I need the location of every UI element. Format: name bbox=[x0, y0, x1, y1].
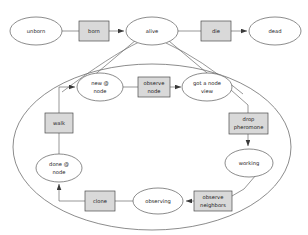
state-observing-shape[interactable] bbox=[133, 188, 183, 214]
edge-walk-newnode bbox=[59, 87, 75, 113]
state-observing[interactable]: observing bbox=[133, 188, 183, 214]
action-born-shape[interactable] bbox=[79, 21, 109, 41]
action-observe-node[interactable]: observe node bbox=[138, 77, 170, 97]
action-born[interactable]: born bbox=[79, 21, 109, 41]
action-drop-pheromone[interactable]: drop pheromone bbox=[229, 113, 268, 134]
edge-clone-donenode bbox=[59, 184, 85, 201]
state-got-a-node-view[interactable]: got a node view bbox=[182, 73, 232, 101]
state-dead-shape[interactable] bbox=[249, 17, 301, 45]
state-working[interactable]: working bbox=[225, 149, 273, 177]
state-new-at-node[interactable]: new @ node bbox=[77, 73, 123, 101]
action-observe-node-shape[interactable] bbox=[138, 77, 170, 97]
composite-edges bbox=[59, 87, 256, 201]
edge-working-observeneighbors bbox=[232, 175, 256, 196]
action-die[interactable]: die bbox=[201, 21, 231, 41]
action-observe-neighbors[interactable]: observe neighbors bbox=[194, 191, 232, 211]
action-observe-neighbors-shape[interactable] bbox=[194, 191, 232, 211]
action-clone[interactable]: clone bbox=[85, 191, 115, 211]
state-done-at-node-shape[interactable] bbox=[36, 154, 82, 182]
state-dead[interactable]: dead bbox=[249, 17, 301, 45]
state-new-at-node-shape[interactable] bbox=[77, 73, 123, 101]
action-walk[interactable]: walk bbox=[45, 113, 73, 133]
action-die-shape[interactable] bbox=[201, 21, 231, 41]
state-done-at-node[interactable]: done @ node bbox=[36, 154, 82, 182]
action-drop-pheromone-shape[interactable] bbox=[229, 113, 268, 134]
state-unborn[interactable]: unborn bbox=[10, 17, 62, 45]
action-clone-shape[interactable] bbox=[85, 191, 115, 211]
edge-gotnodeview-droppheromone bbox=[231, 90, 248, 113]
state-got-a-node-view-shape[interactable] bbox=[182, 73, 232, 101]
action-walk-shape[interactable] bbox=[45, 113, 73, 133]
state-working-shape[interactable] bbox=[225, 149, 273, 177]
state-unborn-shape[interactable] bbox=[10, 17, 62, 45]
state-alive-shape[interactable] bbox=[126, 17, 178, 45]
state-machine-diagram: unborn born alive die dead bbox=[0, 0, 308, 235]
diagram-canvas: unborn born alive die dead bbox=[0, 0, 308, 235]
state-alive[interactable]: alive bbox=[126, 17, 178, 45]
